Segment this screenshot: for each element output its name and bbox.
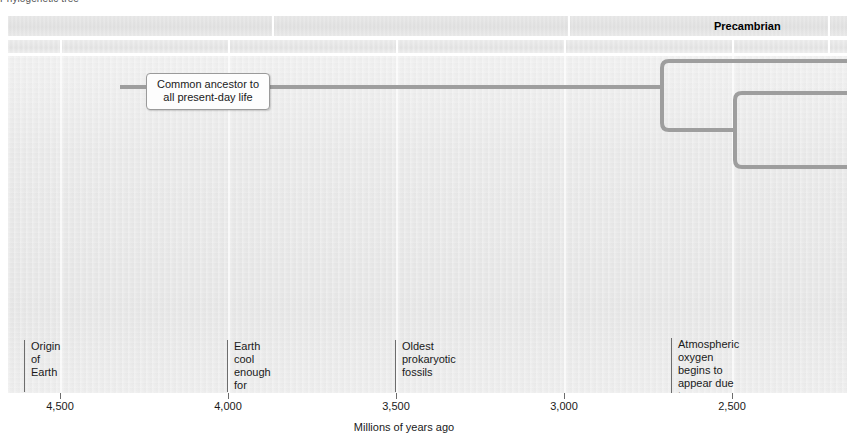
callout-line-1: Common ancestor to — [157, 78, 259, 90]
period-band-separator — [732, 40, 734, 53]
period-band-separator — [396, 40, 398, 53]
axis-title: Millions of years ago — [354, 421, 454, 433]
period-band-separator — [228, 40, 230, 53]
period-band — [8, 40, 847, 53]
tree-node-2 — [735, 93, 847, 167]
period-band-separator — [828, 40, 830, 53]
event-marker-line — [671, 338, 672, 393]
era-band: Precambrian — [8, 16, 847, 36]
axis-tick-mark — [564, 393, 565, 399]
axis-tick-label: 4,500 — [46, 400, 74, 412]
period-band-separator — [564, 40, 566, 53]
era-label-precambrian: Precambrian — [714, 16, 781, 36]
event-label: Origin of Earth — [31, 340, 60, 379]
time-axis: 4,5004,0003,5003,0002,500 Millions of ye… — [8, 393, 847, 437]
axis-tick-mark — [228, 393, 229, 399]
event-marker-line — [24, 340, 25, 392]
axis-tick-label: 4,000 — [214, 400, 242, 412]
axis-tick-mark — [732, 393, 733, 399]
callout-line-2: all present-day life — [163, 91, 252, 103]
event-marker-line — [227, 340, 228, 392]
axis-tick-label: 3,000 — [550, 400, 578, 412]
event-label: Oldest prokaryotic fossils — [402, 340, 456, 379]
era-band-separator — [568, 16, 570, 36]
event-label: Earth cool enough for crust to solidify — [234, 340, 271, 393]
axis-tick-label: 3,500 — [382, 400, 410, 412]
figure-caption: Phylogenetic tree — [0, 0, 79, 4]
event-marker-line — [395, 340, 396, 392]
tree-node-1 — [662, 61, 847, 130]
period-band-separator — [60, 40, 62, 53]
axis-tick-mark — [396, 393, 397, 399]
timeline-plot-area: Common ancestor to all present-day life … — [8, 56, 847, 393]
era-band-separator — [828, 16, 830, 36]
era-band-separator — [272, 16, 274, 36]
axis-tick-mark — [60, 393, 61, 399]
axis-tick-label: 2,500 — [718, 400, 746, 412]
callout-common-ancestor: Common ancestor to all present-day life — [146, 73, 270, 110]
event-label: Atmospheric oxygen begins to appear due … — [678, 338, 749, 393]
